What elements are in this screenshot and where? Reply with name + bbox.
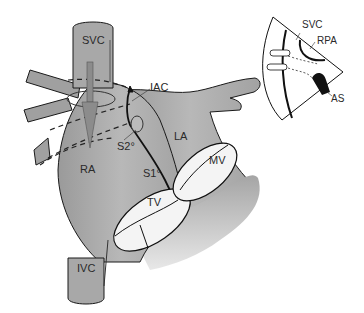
inset-label-svc: SVC: [302, 19, 323, 30]
label-s2: S2°: [117, 140, 135, 152]
inset-label-as: AS: [331, 93, 345, 104]
inset-view: SVC RPA AS: [263, 17, 345, 120]
label-tv: TV: [147, 196, 162, 208]
label-mv: MV: [209, 154, 226, 166]
label-la: LA: [174, 130, 188, 142]
heart-diagram: SVC IAC S2° LA RA S1° MV TV IVC SVC RPA …: [0, 0, 364, 313]
label-s1: S1°: [143, 167, 161, 179]
label-svc: SVC: [82, 34, 105, 46]
label-iac: IAC: [150, 81, 168, 93]
label-ra: RA: [80, 163, 96, 175]
label-ivc: IVC: [77, 262, 95, 274]
inset-label-rpa: RPA: [317, 35, 337, 46]
